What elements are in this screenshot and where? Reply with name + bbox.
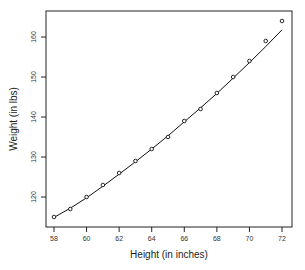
data-point: [264, 39, 268, 43]
data-point: [52, 215, 56, 219]
data-points: [52, 19, 284, 219]
data-point: [215, 91, 219, 95]
data-point: [182, 119, 186, 123]
x-tick-label: 70: [246, 235, 254, 242]
y-axis-title: Weight (in lbs): [8, 87, 19, 151]
y-tick-label: 140: [30, 111, 37, 123]
data-point: [68, 207, 72, 211]
data-point: [166, 135, 170, 139]
y-tick-label: 160: [30, 31, 37, 43]
data-point: [280, 19, 284, 23]
x-tick-label: 62: [115, 235, 123, 242]
y-tick-label: 150: [30, 71, 37, 83]
x-tick-label: 58: [50, 235, 58, 242]
data-point: [134, 159, 138, 163]
x-tick-label: 72: [278, 235, 286, 242]
scatter-chart: 5860626466687072 120130140150160 Height …: [0, 0, 305, 270]
fitted-curve: [54, 30, 282, 218]
data-point: [231, 75, 235, 79]
data-point: [150, 147, 154, 151]
data-point: [117, 171, 121, 175]
y-axis: 120130140150160: [30, 31, 46, 203]
y-tick-label: 120: [30, 191, 37, 203]
x-axis: 5860626466687072: [50, 227, 286, 242]
x-tick-label: 66: [180, 235, 188, 242]
plot-frame: [46, 11, 292, 227]
x-tick-label: 64: [148, 235, 156, 242]
data-point: [199, 107, 203, 111]
data-point: [101, 183, 105, 187]
x-tick-label: 60: [83, 235, 91, 242]
y-tick-label: 130: [30, 151, 37, 163]
data-point: [85, 195, 89, 199]
x-axis-title: Height (in inches): [130, 249, 208, 260]
data-point: [248, 59, 252, 63]
x-tick-label: 68: [213, 235, 221, 242]
